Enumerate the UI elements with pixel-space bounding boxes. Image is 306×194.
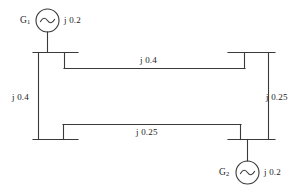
generator-g1-label-subscript: 1 [27, 18, 30, 25]
generator-g2-label-subscript: 2 [226, 170, 229, 177]
generator-g1-label-main: G [20, 15, 27, 25]
generator-g2-label: G2 [219, 168, 229, 178]
generator-g2-sine-icon [241, 170, 255, 175]
branch-left-reactance-label: j 0.4 [12, 93, 29, 102]
power-system-diagram: G1 j 0.2 G2 j 0.2 j 0.4 j 0.4 j 0.25 j 0… [0, 0, 306, 194]
branch-bottom-reactance-label: j 0.25 [136, 128, 158, 137]
branch-top-reactance-label: j 0.4 [140, 56, 157, 65]
diagram-canvas [0, 0, 306, 194]
generator-g1-sine-icon [41, 18, 55, 23]
generator-g2-reactance-label: j 0.2 [264, 168, 281, 177]
generator-g1-reactance-label: j 0.2 [64, 16, 81, 25]
generator-g2-label-main: G [219, 167, 226, 177]
generator-g1-label: G1 [20, 16, 30, 26]
branch-right-reactance-label: j 0.25 [266, 93, 288, 102]
